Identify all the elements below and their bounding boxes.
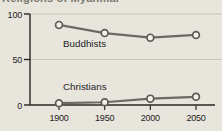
y-tick-label: 0 (17, 101, 22, 111)
chart-svg: 0501001900195020002050BuddhistsChristian… (0, 6, 222, 131)
y-tick-label: 100 (8, 10, 23, 20)
data-point-christians (193, 93, 200, 100)
data-point-buddhists (193, 32, 200, 39)
series-line-buddhists (59, 25, 196, 38)
cropped-title-text: Religions of Myanmar (2, 0, 162, 4)
x-tick-label: 2050 (186, 113, 205, 123)
x-tick-label: 1900 (49, 113, 68, 123)
y-tick-label: 50 (12, 55, 22, 65)
x-tick-label: 2000 (141, 113, 160, 123)
data-point-christians (101, 99, 108, 106)
series-label-christians: Christians (63, 81, 107, 92)
x-tick-label: 1950 (95, 113, 114, 123)
series-line-christians (59, 97, 196, 103)
data-point-buddhists (147, 34, 154, 41)
series-label-buddhists: Buddhists (63, 38, 106, 49)
data-point-christians (147, 95, 154, 102)
data-point-buddhists (56, 22, 63, 29)
data-point-buddhists (101, 30, 108, 37)
chart-figure: Religions of Myanmar 0501001900195020002… (0, 0, 222, 131)
data-point-christians (56, 100, 63, 107)
